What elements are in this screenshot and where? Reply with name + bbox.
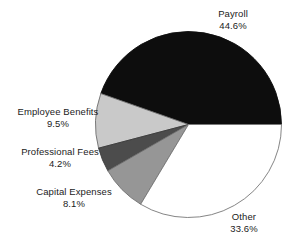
pie-label-other-value: 33.6% bbox=[214, 223, 274, 235]
pie-label-professional-fees-name: Professional Fees bbox=[10, 146, 110, 158]
pie-label-professional-fees-value: 4.2% bbox=[10, 158, 110, 170]
pie-label-professional-fees: Professional Fees 4.2% bbox=[10, 146, 110, 169]
pie-slice-group bbox=[96, 32, 282, 218]
pie-label-employee-benefits-value: 9.5% bbox=[6, 118, 110, 130]
pie-label-capital-expenses-value: 8.1% bbox=[26, 198, 122, 210]
pie-label-employee-benefits: Employee Benefits 9.5% bbox=[6, 106, 110, 129]
pie-label-other: Other 33.6% bbox=[214, 211, 274, 234]
pie-label-payroll-name: Payroll bbox=[196, 8, 270, 20]
pie-label-employee-benefits-name: Employee Benefits bbox=[6, 106, 110, 118]
pie-label-payroll-value: 44.6% bbox=[196, 20, 270, 32]
pie-label-capital-expenses: Capital Expenses 8.1% bbox=[26, 186, 122, 209]
pie-label-capital-expenses-name: Capital Expenses bbox=[26, 186, 122, 198]
pie-label-payroll: Payroll 44.6% bbox=[196, 8, 270, 31]
pie-label-other-name: Other bbox=[214, 211, 274, 223]
pie-chart-figure: Payroll 44.6% Other 33.6% Employee Benef… bbox=[0, 0, 292, 242]
